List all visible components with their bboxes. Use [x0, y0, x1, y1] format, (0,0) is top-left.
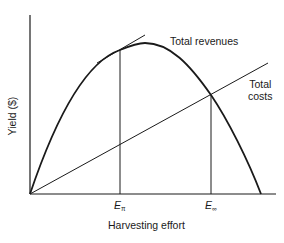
total-revenues-curve: [30, 43, 261, 194]
y-axis-label: Yield ($): [6, 86, 18, 146]
bioeconomic-yield-diagram: Total revenues Total costs Eπ E∞ Harvest…: [0, 0, 284, 243]
total-costs-line1: Total: [248, 78, 273, 90]
diagram-canvas: [0, 0, 284, 243]
e-pi-subscript: π: [121, 205, 126, 212]
y-axis-text: Yield ($): [6, 97, 18, 136]
total-costs-line2: costs: [248, 90, 273, 102]
total-revenues-text: Total revenues: [170, 35, 238, 47]
total-revenues-label: Total revenues: [170, 35, 238, 47]
x-axis-text: Harvesting effort: [108, 219, 185, 231]
e-inf-tick-label: E∞: [205, 199, 217, 212]
e-inf-symbol: E: [205, 199, 212, 211]
total-costs-label: Total costs: [248, 78, 273, 102]
e-inf-subscript: ∞: [212, 205, 217, 212]
tangent-line: [97, 35, 145, 63]
e-pi-tick-label: Eπ: [114, 199, 126, 212]
e-pi-symbol: E: [114, 199, 121, 211]
x-axis-label: Harvesting effort: [108, 219, 185, 231]
total-costs-line: [30, 63, 268, 194]
